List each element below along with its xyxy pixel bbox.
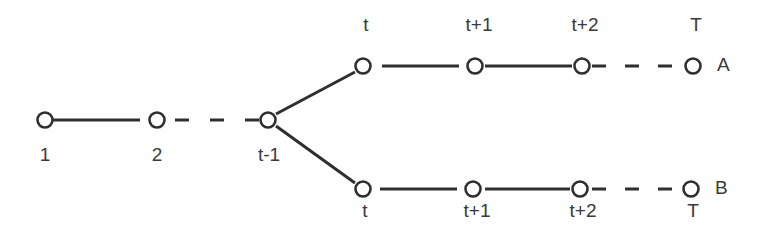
node-A-t-plus-2	[575, 59, 590, 74]
label-A-t-plus-1: t+1	[466, 14, 493, 36]
branch-label-B: B	[715, 177, 728, 199]
label-B-t-plus-2: t+2	[570, 200, 597, 222]
label-B-t: t	[362, 200, 367, 222]
label-A-t: t	[363, 14, 368, 36]
label-node-1: 1	[40, 144, 51, 166]
node-A-t	[356, 59, 371, 74]
label-node-2: 2	[152, 144, 163, 166]
branch-label-A: A	[717, 54, 730, 76]
node-B-T	[684, 182, 699, 197]
label-B-T: T	[687, 200, 699, 222]
node-2	[150, 113, 165, 128]
node-1	[38, 113, 53, 128]
timeline-diagram	[0, 0, 765, 226]
node-A-T	[686, 59, 701, 74]
node-B-t-plus-1	[466, 182, 481, 197]
edge-split-B	[276, 126, 355, 183]
label-A-t-plus-2: t+2	[572, 14, 599, 36]
node-t-minus-1	[261, 113, 276, 128]
node-B-t-plus-2	[573, 182, 588, 197]
label-A-T: T	[690, 14, 702, 36]
label-B-t-plus-1: t+1	[464, 200, 491, 222]
node-A-t-plus-1	[468, 59, 483, 74]
label-node-t-minus-1: t-1	[258, 144, 280, 166]
node-B-t	[356, 182, 371, 197]
edge-split-A	[276, 72, 355, 114]
